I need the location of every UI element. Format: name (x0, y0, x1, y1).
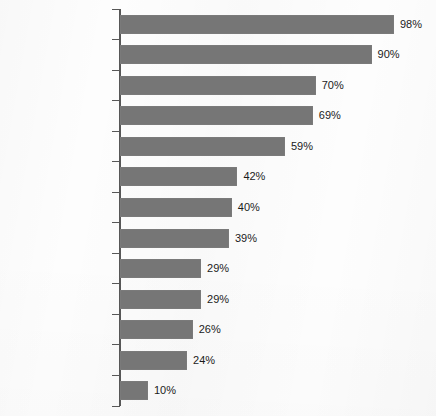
bar (120, 381, 148, 400)
axis-tick-top (112, 9, 120, 10)
bar-value-label: 42% (243, 171, 265, 182)
bar (120, 106, 313, 125)
bar (120, 290, 201, 309)
bar (120, 15, 394, 34)
bar-chart: Color TV98%VCRs90%Cordless Phones70%CD P… (0, 0, 436, 416)
bar (120, 229, 229, 248)
axis-tick (112, 70, 120, 71)
bar-value-label: 40% (238, 202, 260, 213)
plot-area: Color TV98%VCRs90%Cordless Phones70%CD P… (0, 0, 436, 416)
bar (120, 167, 237, 186)
axis-tick (112, 192, 120, 193)
axis-tick (112, 253, 120, 254)
bar-value-label: 39% (235, 233, 257, 244)
axis-tick (112, 406, 120, 407)
bar (120, 198, 232, 217)
bar-value-label: 70% (322, 80, 344, 91)
bar-value-label: 90% (378, 49, 400, 60)
axis-tick (112, 161, 120, 162)
bar-value-label: 69% (319, 110, 341, 121)
axis-tick (112, 283, 120, 284)
bar-value-label: 29% (207, 294, 229, 305)
axis-tick (112, 314, 120, 315)
bar (120, 259, 201, 278)
axis-tick (112, 131, 120, 132)
axis-tick (112, 39, 120, 40)
bar-value-label: 24% (193, 355, 215, 366)
bar-value-label: 10% (154, 385, 176, 396)
bar-value-label: 29% (207, 263, 229, 274)
bar (120, 137, 285, 156)
bar (120, 351, 187, 370)
bar-value-label: 26% (199, 324, 221, 335)
axis-tick (112, 375, 120, 376)
bar-value-label: 59% (291, 141, 313, 152)
bar (120, 320, 193, 339)
bar-value-label: 98% (400, 19, 422, 30)
axis-tick (112, 222, 120, 223)
bar (120, 76, 316, 95)
bar (120, 45, 372, 64)
axis-tick (112, 344, 120, 345)
axis-tick (112, 100, 120, 101)
